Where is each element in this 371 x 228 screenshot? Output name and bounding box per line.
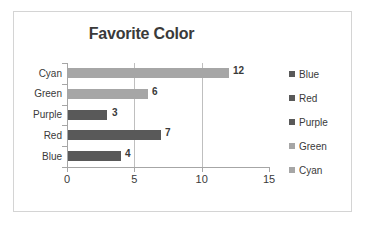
gridline-10 — [202, 63, 203, 167]
legend-label-cyan: Cyan — [299, 165, 322, 176]
legend-label-green: Green — [299, 141, 327, 152]
y-axis-labels: Cyan Green Purple Red Blue — [14, 63, 62, 167]
legend-swatch-icon-blue — [289, 71, 295, 77]
bar-value-cyan: 12 — [233, 65, 244, 76]
plot-area: 12 6 3 7 4 — [67, 63, 269, 167]
y-axis-line — [67, 63, 68, 168]
chart-title: Favorite Color — [14, 25, 269, 43]
y-axis-label-cyan: Cyan — [14, 68, 62, 79]
x-axis-tick — [269, 168, 270, 172]
legend-swatch-icon-green — [289, 143, 295, 149]
y-axis-label-green: Green — [14, 88, 62, 99]
bar-red[interactable] — [67, 130, 161, 140]
legend-label-red: Red — [299, 93, 317, 104]
x-axis-tick — [67, 168, 68, 172]
legend-item-cyan[interactable]: Cyan — [289, 163, 322, 177]
bar-blue[interactable] — [67, 151, 121, 161]
y-axis-label-purple: Purple — [14, 109, 62, 120]
legend-item-purple[interactable]: Purple — [289, 115, 328, 129]
bar-value-green: 6 — [152, 86, 158, 97]
y-axis-label-blue: Blue — [14, 151, 62, 162]
x-axis-line — [67, 167, 270, 168]
gridline-5 — [134, 63, 135, 167]
x-axis-label-0: 0 — [52, 173, 82, 185]
bar-value-blue: 4 — [125, 148, 131, 159]
bar-cyan[interactable] — [67, 68, 229, 78]
bar-green[interactable] — [67, 89, 148, 99]
legend-label-purple: Purple — [299, 117, 328, 128]
legend-swatch-icon-red — [289, 95, 295, 101]
x-axis-tick — [202, 168, 203, 172]
legend-item-blue[interactable]: Blue — [289, 67, 319, 81]
x-axis-label-10: 10 — [187, 173, 217, 185]
legend-item-green[interactable]: Green — [289, 139, 327, 153]
y-axis-label-red: Red — [14, 130, 62, 141]
chart-container: Favorite Color Cyan Green Purple Red Blu… — [13, 11, 352, 212]
x-axis-label-5: 5 — [119, 173, 149, 185]
legend-swatch-icon-cyan — [289, 167, 295, 173]
legend-item-red[interactable]: Red — [289, 91, 317, 105]
x-axis-tick — [134, 168, 135, 172]
bar-value-red: 7 — [165, 127, 171, 138]
x-axis-label-15: 15 — [254, 173, 284, 185]
legend-label-blue: Blue — [299, 69, 319, 80]
bar-purple[interactable] — [67, 110, 107, 120]
bar-value-purple: 3 — [112, 107, 118, 118]
legend-swatch-icon-purple — [289, 119, 295, 125]
